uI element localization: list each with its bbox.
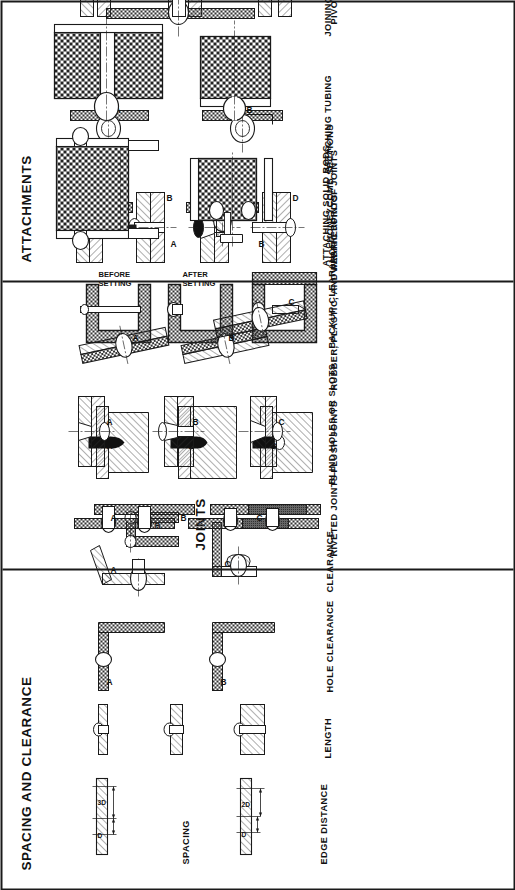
letter-flush-c: C bbox=[278, 416, 284, 426]
letter-rubber-a: A bbox=[132, 332, 138, 342]
letter-riveted-c: C bbox=[256, 512, 262, 522]
figure-joining-tubing bbox=[98, 0, 264, 38]
figure-hole-clearance bbox=[86, 608, 316, 692]
figure-attaching-solid-rods-2 bbox=[176, 180, 306, 264]
letter-attaching-tubing-b: B bbox=[246, 104, 252, 114]
letter-riveted-a: A bbox=[110, 512, 116, 522]
column-joints: JOINTS bbox=[2, 282, 513, 570]
column-spacing-and-clearance: SPACING AND CLEARANCE bbox=[2, 570, 513, 888]
group-label-attaching-tubing: ATTACHING TUBING bbox=[322, 74, 332, 172]
group-label-hole-clearance: HOLE CLEARANCE bbox=[324, 600, 334, 692]
figure-attaching-solid-rods bbox=[62, 180, 182, 264]
figure-flush-joints bbox=[68, 390, 318, 472]
group-label-length: LENGTH bbox=[322, 718, 332, 758]
dim-spacing-d: D bbox=[97, 831, 102, 838]
letter-attaching-tubing-a: A bbox=[114, 104, 120, 114]
group-label-spacing: SPACING bbox=[180, 820, 190, 864]
figure-sheet: SPACING AND CLEARANCE bbox=[0, 0, 515, 890]
letter-riveted-b: B bbox=[180, 512, 186, 522]
figure-edge-distance bbox=[234, 768, 312, 864]
figure-attaching-tubing bbox=[62, 88, 310, 168]
figure-spacing bbox=[90, 768, 172, 864]
section-title-spacing-and-clearance: SPACING AND CLEARANCE bbox=[18, 676, 33, 870]
group-label-riveted-joints: RIVETED JOINTS bbox=[328, 474, 338, 556]
letter-rubber-b: B bbox=[228, 332, 234, 342]
group-label-joining-tubing: JOINING TUBING bbox=[322, 0, 332, 36]
reference-plate: SPACING AND CLEARANCE bbox=[0, 0, 515, 890]
dim-edge-distance-d: D bbox=[241, 830, 246, 837]
letter-flush-a: A bbox=[106, 416, 112, 426]
figure-length bbox=[88, 698, 318, 760]
dim-spacing-3d: 3D bbox=[97, 798, 105, 805]
letter-rubber-c: C bbox=[288, 296, 294, 306]
dim-edge-distance-2d: 2D bbox=[241, 800, 249, 807]
figure-riveted-joint-c bbox=[238, 482, 322, 552]
letter-hole-clearance-b: B bbox=[220, 676, 226, 686]
column-attachments: ATTACHMENTS ATTACHING SOLID RODS bbox=[2, 3, 513, 282]
group-label-flush-joints: FLUSH JOINTS bbox=[328, 400, 338, 472]
letter-hole-clearance-a: A bbox=[106, 676, 112, 686]
group-label-edge-distance: EDGE DISTANCE bbox=[318, 783, 328, 864]
section-title-attachments: ATTACHMENTS bbox=[18, 155, 33, 262]
letter-flush-b: B bbox=[192, 416, 198, 426]
